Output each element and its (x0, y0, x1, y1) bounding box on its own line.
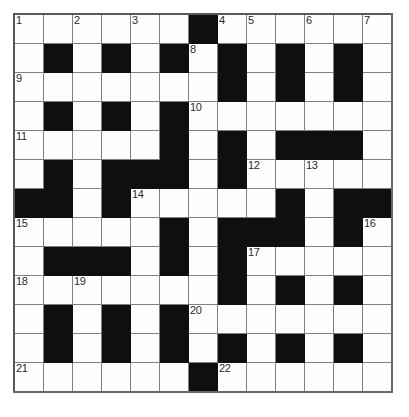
crossword-open-cell[interactable] (44, 131, 73, 160)
crossword-open-cell[interactable] (363, 73, 393, 102)
crossword-open-cell[interactable] (276, 305, 305, 334)
crossword-open-cell[interactable] (160, 189, 189, 218)
crossword-open-cell[interactable] (363, 44, 393, 73)
crossword-open-cell[interactable] (363, 131, 393, 160)
crossword-open-cell[interactable] (334, 363, 363, 393)
crossword-open-cell[interactable]: 1 (14, 14, 44, 44)
crossword-open-cell[interactable] (247, 305, 276, 334)
crossword-open-cell[interactable]: 10 (189, 102, 218, 131)
crossword-open-cell[interactable]: 11 (14, 131, 44, 160)
crossword-open-cell[interactable] (73, 73, 102, 102)
crossword-open-cell[interactable]: 3 (131, 14, 160, 44)
crossword-open-cell[interactable] (334, 14, 363, 44)
crossword-open-cell[interactable]: 22 (218, 363, 247, 393)
crossword-open-cell[interactable] (334, 102, 363, 131)
crossword-open-cell[interactable] (131, 218, 160, 247)
crossword-open-cell[interactable] (276, 160, 305, 189)
crossword-open-cell[interactable] (131, 305, 160, 334)
crossword-open-cell[interactable] (14, 102, 44, 131)
crossword-open-cell[interactable] (276, 363, 305, 393)
crossword-open-cell[interactable] (14, 247, 44, 276)
crossword-open-cell[interactable] (102, 363, 131, 393)
crossword-open-cell[interactable] (189, 73, 218, 102)
crossword-open-cell[interactable] (44, 363, 73, 393)
crossword-open-cell[interactable] (363, 247, 393, 276)
crossword-open-cell[interactable] (305, 189, 334, 218)
crossword-open-cell[interactable] (44, 218, 73, 247)
crossword-open-cell[interactable] (334, 247, 363, 276)
crossword-open-cell[interactable] (73, 44, 102, 73)
crossword-open-cell[interactable] (189, 276, 218, 305)
crossword-grid[interactable]: 12345678910111213141516171819202122 (13, 13, 393, 393)
crossword-open-cell[interactable] (218, 189, 247, 218)
crossword-open-cell[interactable] (247, 44, 276, 73)
crossword-open-cell[interactable] (334, 305, 363, 334)
crossword-open-cell[interactable]: 12 (247, 160, 276, 189)
crossword-open-cell[interactable] (102, 14, 131, 44)
crossword-open-cell[interactable] (305, 334, 334, 363)
crossword-open-cell[interactable] (131, 73, 160, 102)
crossword-open-cell[interactable] (363, 334, 393, 363)
crossword-open-cell[interactable] (73, 305, 102, 334)
crossword-open-cell[interactable] (363, 363, 393, 393)
crossword-open-cell[interactable] (247, 276, 276, 305)
crossword-open-cell[interactable] (305, 102, 334, 131)
crossword-open-cell[interactable] (73, 131, 102, 160)
crossword-open-cell[interactable] (73, 102, 102, 131)
crossword-open-cell[interactable] (247, 102, 276, 131)
crossword-open-cell[interactable] (102, 276, 131, 305)
crossword-open-cell[interactable] (218, 305, 247, 334)
crossword-open-cell[interactable] (305, 247, 334, 276)
crossword-open-cell[interactable]: 19 (73, 276, 102, 305)
crossword-open-cell[interactable] (363, 102, 393, 131)
crossword-open-cell[interactable]: 17 (247, 247, 276, 276)
crossword-open-cell[interactable]: 6 (305, 14, 334, 44)
crossword-open-cell[interactable] (247, 334, 276, 363)
crossword-open-cell[interactable]: 9 (14, 73, 44, 102)
crossword-open-cell[interactable] (131, 363, 160, 393)
crossword-open-cell[interactable] (276, 102, 305, 131)
crossword-open-cell[interactable] (44, 276, 73, 305)
crossword-open-cell[interactable] (160, 276, 189, 305)
crossword-open-cell[interactable]: 4 (218, 14, 247, 44)
crossword-open-cell[interactable] (363, 160, 393, 189)
crossword-open-cell[interactable] (247, 131, 276, 160)
crossword-open-cell[interactable]: 15 (14, 218, 44, 247)
crossword-open-cell[interactable] (131, 131, 160, 160)
crossword-open-cell[interactable] (276, 247, 305, 276)
crossword-open-cell[interactable] (305, 305, 334, 334)
crossword-open-cell[interactable] (73, 363, 102, 393)
crossword-open-cell[interactable] (131, 334, 160, 363)
crossword-open-cell[interactable]: 2 (73, 14, 102, 44)
crossword-open-cell[interactable] (44, 14, 73, 44)
crossword-open-cell[interactable] (247, 363, 276, 393)
crossword-open-cell[interactable]: 20 (189, 305, 218, 334)
crossword-open-cell[interactable] (189, 218, 218, 247)
crossword-open-cell[interactable]: 14 (131, 189, 160, 218)
crossword-open-cell[interactable] (189, 189, 218, 218)
crossword-open-cell[interactable] (14, 334, 44, 363)
crossword-open-cell[interactable] (189, 131, 218, 160)
crossword-open-cell[interactable] (131, 276, 160, 305)
crossword-open-cell[interactable] (44, 73, 73, 102)
crossword-open-cell[interactable] (131, 247, 160, 276)
crossword-open-cell[interactable] (102, 131, 131, 160)
crossword-open-cell[interactable]: 8 (189, 44, 218, 73)
crossword-open-cell[interactable] (276, 14, 305, 44)
crossword-open-cell[interactable]: 7 (363, 14, 393, 44)
crossword-open-cell[interactable] (102, 73, 131, 102)
crossword-open-cell[interactable] (102, 218, 131, 247)
crossword-open-cell[interactable] (305, 276, 334, 305)
crossword-open-cell[interactable] (305, 73, 334, 102)
crossword-open-cell[interactable]: 13 (305, 160, 334, 189)
crossword-open-cell[interactable] (189, 160, 218, 189)
crossword-open-cell[interactable] (14, 44, 44, 73)
crossword-open-cell[interactable] (131, 102, 160, 131)
crossword-open-cell[interactable] (131, 44, 160, 73)
crossword-open-cell[interactable] (363, 305, 393, 334)
crossword-open-cell[interactable] (363, 276, 393, 305)
crossword-open-cell[interactable] (73, 334, 102, 363)
crossword-open-cell[interactable] (160, 363, 189, 393)
crossword-open-cell[interactable] (334, 160, 363, 189)
crossword-open-cell[interactable] (73, 189, 102, 218)
